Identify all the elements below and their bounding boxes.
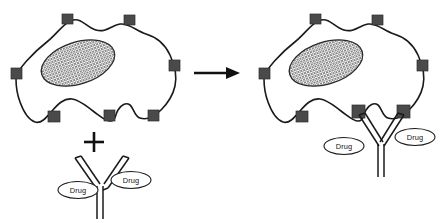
receptor-left-east <box>169 60 180 71</box>
right-panel: Drug Drug <box>259 14 435 177</box>
receptor-right-bound-1 <box>352 105 365 118</box>
drug-label-text: Drug <box>336 142 352 151</box>
drug-label-text: Drug <box>123 176 139 185</box>
receptor-left-bottom-3 <box>148 110 159 121</box>
left-panel: Drug Drug <box>11 14 180 219</box>
arrow-right-icon <box>194 67 240 79</box>
receptor-right-bottom-1 <box>296 111 308 122</box>
drug-label-text: Drug <box>70 186 86 195</box>
antibody-bound <box>359 113 404 177</box>
receptor-right-east <box>417 60 428 71</box>
receptor-right-west <box>259 68 270 79</box>
drug-label-left-1: Drug <box>58 182 98 199</box>
receptor-right-top-1 <box>310 14 321 24</box>
drug-label-left-2: Drug <box>111 172 151 189</box>
receptor-left-bottom-2 <box>104 110 115 121</box>
antibody-receptor-diagram: Drug Drug <box>0 0 444 223</box>
plus-sign <box>84 132 104 152</box>
receptor-left-bottom-1 <box>48 111 60 122</box>
receptor-left-top-2 <box>124 15 135 25</box>
drug-label-right-1: Drug <box>324 138 364 155</box>
drug-label-text: Drug <box>407 133 423 142</box>
drug-label-right-2: Drug <box>395 129 435 146</box>
receptor-right-top-2 <box>372 15 383 25</box>
figure-root: Drug Drug <box>0 0 444 223</box>
receptor-left-top-1 <box>62 14 73 24</box>
receptor-left-west <box>11 68 22 79</box>
